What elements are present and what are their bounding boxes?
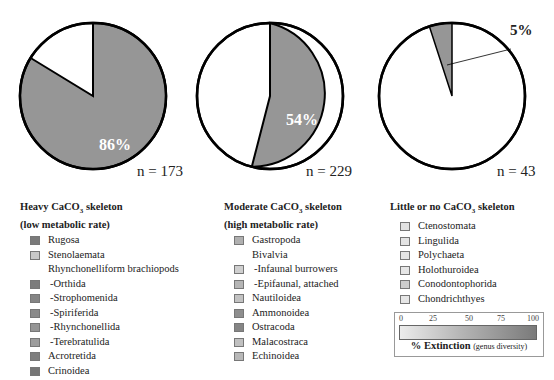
legend-item: Ostracoda: [224, 320, 342, 335]
legend-swatch: [30, 236, 40, 245]
legend-item: -Rhynchonellida: [20, 320, 179, 335]
legend-moderate: Moderate CaCO3 skeleton (high metabolic …: [224, 200, 342, 364]
legend-swatch: [30, 367, 40, 376]
legend-item-label: Rhynchonelliform brachiopods: [48, 263, 179, 274]
legend-item: -Epifaunal, attached: [224, 277, 342, 292]
legend-swatch: [400, 266, 410, 275]
legend-item-label: Polychaeta: [418, 249, 464, 260]
legend-swatch: [30, 294, 40, 303]
legend-item-label: -Strophomenida: [50, 292, 118, 303]
legend-item-label: Stenolaemata: [48, 249, 105, 260]
legend-item-label: -Infaunal burrowers: [254, 263, 338, 274]
legend-item-label: -Rhynchonellida: [50, 321, 120, 332]
legend-item-label: Ctenostomata: [418, 220, 476, 231]
legend-item-label: Holothuroidea: [418, 264, 479, 275]
scale-tick: 75: [497, 314, 505, 323]
legend-swatch: [30, 251, 40, 260]
pie-moderate: 54%: [194, 20, 346, 172]
legend-item-label: -Epifaunal, attached: [254, 278, 339, 289]
pct-label-little: 5%: [510, 22, 533, 39]
legend-item-label: Crinoidea: [48, 365, 89, 376]
legend-item-label: Echinoidea: [252, 350, 299, 361]
legend-item-label: -Spiriferida: [50, 307, 98, 318]
legend-item: -Strophomenida: [20, 291, 179, 306]
legend-swatch: [400, 280, 410, 289]
legend-swatch: [234, 294, 244, 303]
n-label-moderate: n = 229: [306, 163, 352, 180]
legend-swatch: [30, 280, 40, 289]
legend-swatch: [234, 323, 244, 332]
legend-item: Polychaeta: [390, 248, 515, 263]
legend-item-label: Lingulida: [418, 235, 459, 246]
legend-swatch: [234, 236, 244, 245]
legend-moderate-subtitle: (high metabolic rate): [224, 218, 342, 232]
legend-item: Bivalvia: [224, 248, 342, 263]
legend-item: -Infaunal burrowers: [224, 262, 342, 277]
legend-swatch: [400, 237, 410, 246]
legend-item: Ctenostomata: [390, 219, 515, 234]
legend-swatch: [30, 338, 40, 347]
legend-item: Holothuroidea: [390, 263, 515, 278]
n-label-little: n = 43: [497, 163, 535, 180]
legend-swatch: [234, 280, 244, 289]
legend-item: Rugosa: [20, 233, 179, 248]
legend-swatch: [234, 265, 244, 274]
legend-item: Acrotretida: [20, 349, 179, 364]
legend-swatch: [400, 295, 410, 304]
legend-heavy-subtitle: (low metabolic rate): [20, 218, 179, 232]
scale-tick: 50: [465, 314, 473, 323]
legend-item: -Orthida: [20, 277, 179, 292]
legend-item: Rhynchonelliform brachiopods: [20, 262, 179, 277]
pct-label-heavy: 86%: [99, 136, 131, 154]
legend-swatch: [234, 352, 244, 361]
legend-swatch: [30, 309, 40, 318]
legend-item-label: Ostracoda: [252, 321, 295, 332]
legend-item: Lingulida: [390, 234, 515, 249]
legend-item-label: -Terebratulida: [50, 336, 109, 347]
legend-item: Nautiloidea: [224, 291, 342, 306]
legend-swatch: [30, 323, 40, 332]
legend-little: Little or no CaCO3 skeleton Ctenostomata…: [390, 200, 515, 306]
pct-label-moderate: 54%: [286, 111, 318, 129]
legend-little-title: Little or no CaCO3 skeleton: [390, 200, 515, 218]
legend-item: Crinoidea: [20, 364, 179, 379]
legend-heavy-title: Heavy CaCO3 skeleton: [20, 200, 179, 218]
legend-item-label: Bivalvia: [252, 249, 288, 260]
legend-item-label: Malacostraca: [252, 336, 308, 347]
extinction-scale: 0 25 50 75 100 % Extinction (genus diver…: [394, 312, 544, 357]
legend-item-label: -Orthida: [50, 278, 86, 289]
legend-item: -Terebratulida: [20, 335, 179, 350]
legend-item-label: Gastropoda: [252, 234, 300, 245]
legend-heavy: Heavy CaCO3 skeleton (low metabolic rate…: [20, 200, 179, 378]
scale-tick: 0: [399, 314, 403, 323]
scale-tick: 100: [527, 314, 539, 323]
pie-heavy: 86%: [17, 20, 169, 172]
legend-item-label: Acrotretida: [48, 350, 96, 361]
legend-swatch: [30, 352, 40, 361]
legend-swatch: [400, 222, 410, 231]
legend-item: Echinoidea: [224, 349, 342, 364]
legend-item: Malacostraca: [224, 335, 342, 350]
legend-item-label: Chondrichthyes: [418, 293, 485, 304]
legend-moderate-title: Moderate CaCO3 skeleton: [224, 200, 342, 218]
legend-swatch: [234, 338, 244, 347]
scale-tick: 25: [429, 314, 437, 323]
scale-gradient-bar: [399, 325, 537, 340]
legend-item: Ammonoidea: [224, 306, 342, 321]
legend-item-label: Conodontophorida: [418, 278, 497, 289]
legend-item: Gastropoda: [224, 233, 342, 248]
legend-item-label: Rugosa: [48, 234, 80, 245]
pie-little: [376, 20, 528, 172]
legend-item: Stenolaemata: [20, 248, 179, 263]
legend-swatch: [234, 309, 244, 318]
n-label-heavy: n = 173: [137, 163, 183, 180]
legend-swatch: [400, 251, 410, 260]
legend-item: Chondrichthyes: [390, 292, 515, 307]
legend-item-label: Ammonoidea: [252, 307, 309, 318]
scale-title: % Extinction (genus diversity): [395, 340, 543, 351]
legend-item: Conodontophorida: [390, 277, 515, 292]
legend-item-label: Nautiloidea: [252, 292, 301, 303]
legend-item: -Spiriferida: [20, 306, 179, 321]
